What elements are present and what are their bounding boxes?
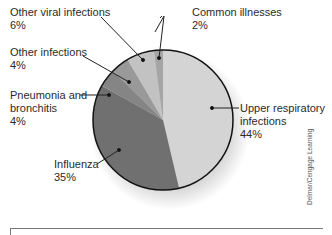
- label-text: Common illnesses: [192, 6, 282, 19]
- label-text: Pneumonia and: [10, 89, 87, 102]
- label-text-2: bronchitis: [10, 102, 87, 115]
- label-text: Influenza: [54, 158, 99, 171]
- label-pct: 4%: [10, 115, 87, 128]
- bottom-frame: [10, 228, 323, 235]
- label-pct: 35%: [54, 171, 99, 184]
- label-influenza: Influenza 35%: [54, 158, 99, 184]
- label-pneumonia: Pneumonia and bronchitis 4%: [10, 89, 87, 128]
- label-text: Other infections: [10, 46, 87, 59]
- label-pct: 6%: [10, 19, 110, 32]
- label-other-viral: Other viral infections 6%: [10, 6, 110, 32]
- label-pct: 4%: [10, 59, 87, 72]
- label-other-infections: Other infections 4%: [10, 46, 87, 72]
- credit-text: Delmar/Cengage Learning: [306, 105, 313, 205]
- label-common-illnesses: Common illnesses 2%: [192, 6, 282, 32]
- label-pct: 2%: [192, 19, 282, 32]
- label-text: Other viral infections: [10, 6, 110, 19]
